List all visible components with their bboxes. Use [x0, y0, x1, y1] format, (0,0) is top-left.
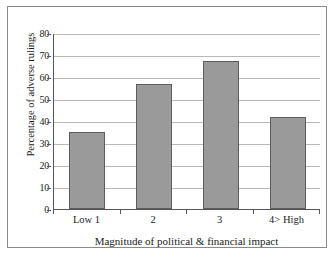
- x-tick-label: 2: [120, 214, 186, 226]
- y-tick-label: 40: [19, 117, 49, 127]
- bar: [69, 132, 105, 209]
- x-axis-ticks: Low 1 2 3 4> High: [53, 214, 320, 230]
- x-tick-label: Low 1: [53, 214, 120, 226]
- y-tick-label: 60: [19, 73, 49, 83]
- bar: [203, 61, 239, 210]
- y-tick-mark: [47, 56, 51, 57]
- y-tick-mark: [47, 78, 51, 79]
- y-tick-label: 20: [19, 161, 49, 171]
- y-tick-mark: [47, 188, 51, 189]
- plot-area: [53, 34, 320, 210]
- y-tick-label: 80: [19, 29, 49, 39]
- y-tick-label: 70: [19, 51, 49, 61]
- y-axis-ticks: 80 70 60 50 40 30 20 10 0: [13, 34, 49, 210]
- y-tick-label: 0: [19, 205, 49, 215]
- y-tick-mark: [47, 166, 51, 167]
- y-tick-label: 30: [19, 139, 49, 149]
- x-tick-label: 4> High: [253, 214, 320, 226]
- y-tick-mark: [47, 122, 51, 123]
- y-tick-label: 50: [19, 95, 49, 105]
- y-tick-label: 10: [19, 183, 49, 193]
- gridline: [54, 78, 320, 79]
- x-axis-title: Magnitude of political & financial impac…: [53, 235, 320, 248]
- gridline: [54, 100, 320, 101]
- x-tick-label: 3: [186, 214, 253, 226]
- gridline: [54, 34, 320, 35]
- y-tick-mark: [47, 100, 51, 101]
- gridline: [54, 56, 320, 57]
- figure-frame: Percentage of adverse rulings 80 70 60 5…: [7, 6, 327, 248]
- y-tick-mark: [47, 210, 51, 211]
- y-tick-mark: [47, 144, 51, 145]
- bar: [136, 84, 172, 209]
- chart-figure: Percentage of adverse rulings 80 70 60 5…: [0, 0, 336, 260]
- y-tick-mark: [47, 34, 51, 35]
- bar: [270, 117, 306, 209]
